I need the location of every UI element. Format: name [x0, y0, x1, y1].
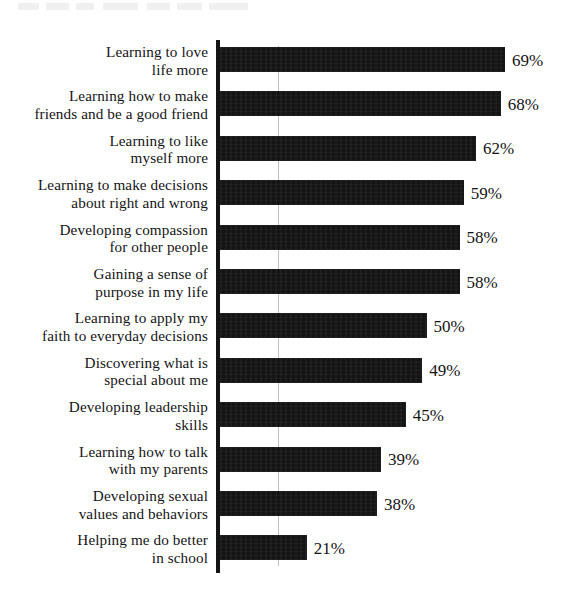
bar — [220, 358, 422, 383]
category-label: Developing leadership skills — [0, 398, 208, 433]
bar — [220, 313, 427, 338]
category-label: Learning to love life more — [0, 43, 208, 78]
bar-track — [220, 358, 422, 383]
category-label: Discovering what is special about me — [0, 353, 208, 388]
category-label: Helping me do better in school — [0, 531, 208, 566]
bar — [220, 47, 505, 72]
category-label: Developing compassion for other people — [0, 220, 208, 255]
bar-track — [220, 447, 381, 472]
bar-row: Learning to like myself more62% — [0, 127, 570, 171]
category-label: Learning to apply my faith to everyday d… — [0, 309, 208, 344]
bar-value-label: 59% — [471, 183, 502, 202]
bar-value-label: 68% — [508, 94, 539, 113]
bar — [220, 180, 464, 205]
bar-track — [220, 535, 307, 560]
bar — [220, 402, 406, 427]
bar — [220, 225, 460, 250]
bar-chart: Learning to love life more69%Learning ho… — [0, 0, 570, 610]
bar-value-label: 58% — [467, 228, 498, 247]
bar-row: Learning to love life more69% — [0, 38, 570, 82]
category-label: Learning how to make friends and be a go… — [0, 87, 208, 122]
bar-value-label: 69% — [512, 50, 543, 69]
category-label: Developing sexual values and behaviors — [0, 487, 208, 522]
bar-row: Helping me do better in school21% — [0, 526, 570, 570]
bar-track — [220, 91, 501, 116]
bar-track — [220, 491, 377, 516]
bar-value-label: 62% — [483, 139, 514, 158]
bar — [220, 491, 377, 516]
bar-value-label: 58% — [467, 272, 498, 291]
bar-value-label: 49% — [429, 361, 460, 380]
bar-row: Learning to make decisions about right a… — [0, 171, 570, 215]
bar-track — [220, 136, 476, 161]
category-label: Learning to make decisions about right a… — [0, 176, 208, 211]
bar-row: Learning to apply my faith to everyday d… — [0, 304, 570, 348]
bar-row: Learning how to make friends and be a go… — [0, 82, 570, 126]
bar-row: Developing leadership skills45% — [0, 393, 570, 437]
bar — [220, 91, 501, 116]
bar — [220, 136, 476, 161]
bar-value-label: 39% — [388, 450, 419, 469]
bar-row: Gaining a sense of purpose in my life58% — [0, 260, 570, 304]
bar-value-label: 21% — [314, 538, 345, 557]
bar-track — [220, 47, 505, 72]
category-label: Learning to like myself more — [0, 131, 208, 166]
bar-value-label: 38% — [384, 494, 415, 513]
category-label: Gaining a sense of purpose in my life — [0, 265, 208, 300]
bar-row: Discovering what is special about me49% — [0, 349, 570, 393]
bar-value-label: 50% — [434, 316, 465, 335]
bar — [220, 269, 460, 294]
bar-value-label: 45% — [413, 405, 444, 424]
bar — [220, 535, 307, 560]
bar-track — [220, 269, 460, 294]
bar-track — [220, 313, 427, 338]
bar-track — [220, 225, 460, 250]
bar-rows: Learning to love life more69%Learning ho… — [0, 0, 570, 610]
bar-row: Developing compassion for other people58… — [0, 216, 570, 260]
bar-row: Developing sexual values and behaviors38… — [0, 482, 570, 526]
bar — [220, 447, 381, 472]
bar-track — [220, 180, 464, 205]
bar-track — [220, 402, 406, 427]
bar-row: Learning how to talk with my parents39% — [0, 438, 570, 482]
category-label: Learning how to talk with my parents — [0, 442, 208, 477]
